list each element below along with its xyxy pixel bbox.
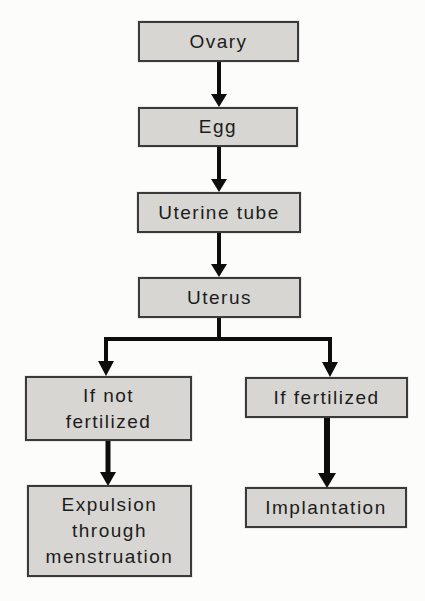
- arrowhead-icon: [318, 473, 336, 488]
- node-uterine-tube: Uterine tube: [137, 192, 301, 233]
- flowchart-canvas: Ovary Egg Uterine tube Uterus If not fer…: [0, 0, 425, 601]
- node-ovary: Ovary: [138, 21, 299, 62]
- arrow-egg-to-uterine-tube: [211, 147, 227, 192]
- node-implantation: Implantation: [245, 487, 407, 528]
- arrow-if-fertilized-to-implantation: [318, 418, 336, 488]
- arrow-ovary-to-egg: [211, 62, 227, 107]
- arrow-uterine-tube-to-uterus: [211, 233, 227, 277]
- node-if-fertilized: If fertilized: [245, 377, 408, 418]
- arrowhead-icon: [211, 94, 227, 107]
- arrowhead-icon: [98, 361, 114, 376]
- node-uterus: Uterus: [138, 277, 301, 318]
- arrowhead-icon: [211, 264, 227, 277]
- node-expulsion-through-menstruation: Expulsion through menstruation: [27, 485, 192, 577]
- node-egg: Egg: [138, 107, 298, 147]
- arrowhead-icon: [100, 472, 116, 486]
- arrow-if-not-fertilized-to-expulsion: [100, 441, 116, 486]
- branch-uterus-to-outcomes: [98, 318, 338, 377]
- node-if-not-fertilized: If not fertilized: [25, 376, 192, 441]
- arrowhead-icon: [211, 179, 227, 192]
- arrowhead-icon: [322, 362, 338, 377]
